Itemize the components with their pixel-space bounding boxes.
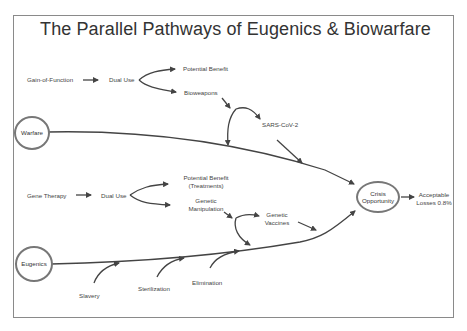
warfare-node: Warfare	[14, 116, 50, 150]
sars-cov-2-label: SARS-CoV-2	[262, 121, 298, 129]
dual-use-upper-label: Dual Use	[109, 76, 134, 84]
arrow-dualuse2-to-manip	[130, 195, 170, 205]
arrow-vaccines-to-eugenics-line	[298, 222, 316, 230]
arrow-split-to-warfare-line	[228, 109, 236, 145]
crisis-opportunity-node: Crisis Opportunity	[356, 181, 400, 213]
arrow-slavery	[94, 263, 119, 283]
gain-of-function-label: Gain-of-Function	[27, 76, 73, 84]
arrow-dualuse-to-bioweapons	[139, 80, 176, 92]
gene-therapy-label: Gene Therapy	[27, 192, 66, 200]
bioweapons-label: Bioweapons	[184, 89, 218, 97]
genetic-vaccines-label: Genetic Vaccines	[257, 211, 297, 226]
eugenics-label: Eugenics	[21, 260, 46, 268]
arrow-split-to-eugenics-line	[235, 218, 250, 245]
acceptable-losses-label: Acceptable Losses 0.8%	[414, 191, 454, 206]
arrow-dualuse-to-benefit	[139, 69, 175, 80]
arrow-bioweapons-to-split	[222, 98, 230, 108]
arrow-split-to-vaccines	[236, 215, 259, 218]
dual-use-lower-label: Dual Use	[101, 192, 126, 200]
eugenics-line	[51, 211, 355, 264]
arrow-split-to-sars	[236, 108, 260, 119]
arrow-dualuse2-to-benefit	[130, 184, 168, 195]
crisis-label: Crisis	[370, 190, 385, 197]
genetic-manipulation-label: Genetic Manipulation	[176, 197, 236, 212]
connector-lines	[0, 0, 467, 331]
arrow-manip-to-split	[224, 212, 232, 218]
warfare-label: Warfare	[21, 129, 43, 137]
eugenics-node: Eugenics	[15, 246, 53, 282]
arrow-sterilization	[157, 258, 184, 277]
sterilization-label: Sterilization	[138, 285, 170, 293]
potential-benefit-treatments-label: Potential Benefit (Treatments)	[176, 174, 236, 189]
slavery-label: Slavery	[79, 292, 100, 300]
opportunity-label: Opportunity	[362, 197, 394, 204]
potential-benefit-upper-label: Potential Benefit	[183, 65, 228, 73]
elimination-label: Elimination	[192, 279, 222, 287]
